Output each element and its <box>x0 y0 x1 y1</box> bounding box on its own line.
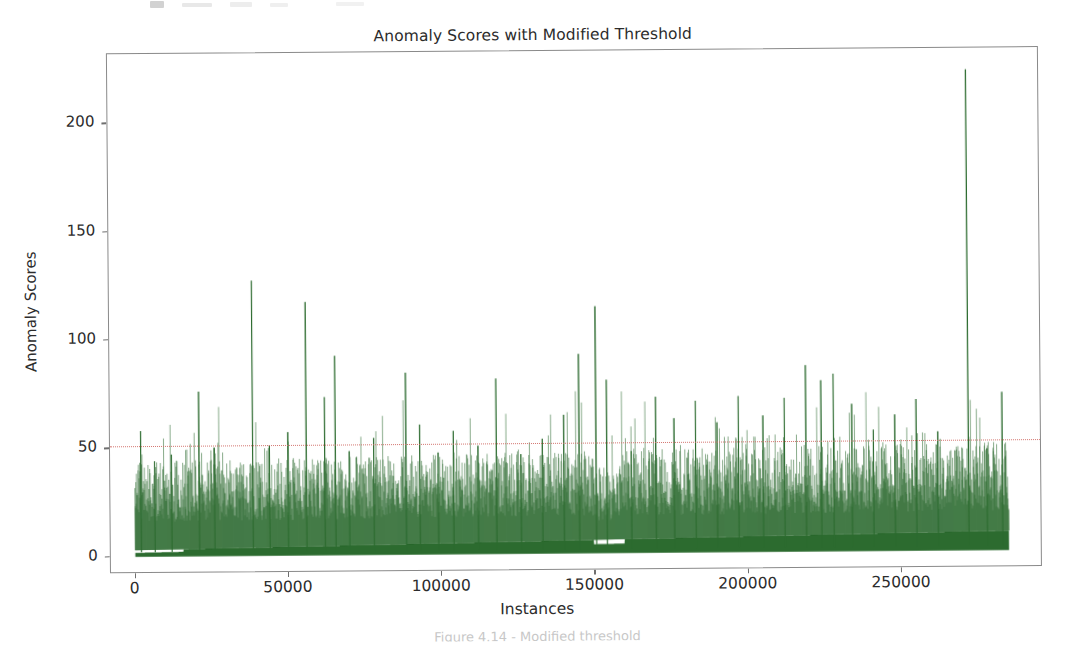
x-tick-mark <box>594 570 595 575</box>
y-tick-label: 100 <box>30 329 96 348</box>
x-tick-mark <box>748 568 749 573</box>
y-tick-label: 150 <box>29 221 95 240</box>
chart-title: Anomaly Scores with Modified Threshold <box>0 22 1068 48</box>
figure-caption: Figure 4.14 - Modified threshold <box>2 625 1070 645</box>
y-tick-label: 0 <box>32 546 98 565</box>
x-tick-label: 100000 <box>412 577 471 595</box>
x-tick-label: 150000 <box>565 575 624 593</box>
anomaly-scores-series <box>107 47 1041 572</box>
x-tick-label: 250000 <box>871 573 930 591</box>
x-tick-mark <box>441 571 442 576</box>
x-tick-mark <box>134 573 135 578</box>
x-tick-label: 0 <box>130 579 140 597</box>
y-axis-label: Anomaly Scores <box>21 251 40 372</box>
y-tick-label: 200 <box>28 113 94 132</box>
x-tick-label: 200000 <box>718 574 777 592</box>
plot-area <box>107 47 1041 572</box>
x-tick-label: 50000 <box>263 578 312 596</box>
x-axis-label: Instances <box>2 596 1070 622</box>
x-tick-mark <box>288 572 289 577</box>
y-tick-label: 50 <box>31 438 97 457</box>
x-tick-mark <box>901 567 902 572</box>
anomaly-scores-figure: Anomaly Scores with Modified Threshold A… <box>0 0 1070 645</box>
plot-frame <box>106 46 1042 573</box>
